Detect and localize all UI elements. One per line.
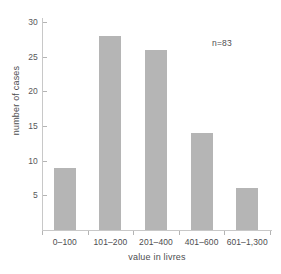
y-axis-tick-label: 30 [4,18,38,27]
y-axis-title: number of cases [12,41,21,161]
bar [236,188,258,230]
x-axis-tick-label: 601–1,300 [227,238,268,247]
bar [145,50,167,230]
x-axis-tick-mark [224,231,225,235]
x-axis-title: value in livres [42,253,272,262]
x-axis-tick-label: 0–100 [53,238,77,247]
x-axis-tick-mark [133,231,134,235]
x-axis-tick-label: 201–400 [139,238,173,247]
bar [54,168,76,230]
x-axis-line [42,230,272,231]
y-axis-tick-label: 25 [4,52,38,61]
y-axis-tick-label: 20 [4,87,38,96]
x-axis-tick-label: 101–200 [93,238,127,247]
bar [191,133,213,230]
plot-area [42,18,270,230]
y-axis-tick-label: 5 [4,191,38,200]
y-axis-tick-label: 15 [4,122,38,131]
y-axis-tick-label-wrap: 10 [0,161,38,162]
y-axis-tick-label: 10 [4,156,38,165]
histogram-figure: 51015202530 0–100101–200201–400401–60060… [0,0,281,274]
x-axis-tick-mark [270,231,271,235]
sample-size-annotation: n=83 [212,39,232,48]
y-axis-tick-label-wrap: 30 [0,22,38,23]
y-axis-tick-label-wrap: 5 [0,195,38,196]
x-axis-tick-mark [179,231,180,235]
x-axis-tick-mark [88,231,89,235]
x-axis-tick-label: 401–600 [185,238,219,247]
x-axis-tick-mark [42,231,43,235]
bar [99,36,121,230]
